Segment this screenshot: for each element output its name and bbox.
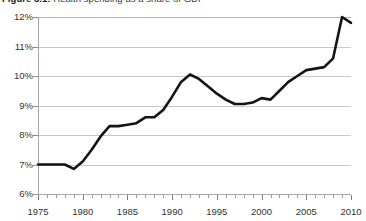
figure-title: Figure 3.1: Health spending as a share o…: [2, 0, 361, 7]
x-tick-minor: [333, 195, 334, 198]
y-tick-label: 6%: [1, 189, 33, 199]
x-tick-minor: [92, 195, 93, 198]
x-tick-major: [172, 195, 173, 200]
x-tick-major: [83, 195, 84, 200]
gridline: [38, 165, 351, 166]
x-tick-label: 1995: [197, 206, 237, 217]
x-tick-major: [351, 195, 352, 200]
x-tick-minor: [235, 195, 236, 198]
x-tick-minor: [145, 195, 146, 198]
y-tick-mark: [33, 106, 38, 107]
x-tick-minor: [253, 195, 254, 198]
x-tick-minor: [163, 195, 164, 198]
y-tick-mark: [33, 47, 38, 48]
x-tick-minor: [47, 195, 48, 198]
y-tick-mark: [33, 135, 38, 136]
x-tick-minor: [181, 195, 182, 198]
x-tick-major: [306, 195, 307, 200]
figure-title-text: Health spending as a share of GDP: [53, 0, 204, 4]
x-tick-minor: [65, 195, 66, 198]
y-axis-line: [38, 17, 39, 195]
x-tick-label: 2000: [242, 206, 282, 217]
x-tick-minor: [271, 195, 272, 198]
x-tick-minor: [226, 195, 227, 198]
x-tick-major: [217, 195, 218, 200]
y-tick-mark: [33, 76, 38, 77]
y-tick-mark: [33, 17, 38, 18]
x-tick-minor: [110, 195, 111, 198]
x-tick-major: [38, 195, 39, 200]
gridline: [38, 76, 351, 77]
x-tick-minor: [342, 195, 343, 198]
x-tick-minor: [56, 195, 57, 198]
x-tick-minor: [324, 195, 325, 198]
gridline: [38, 135, 351, 136]
x-tick-label: 1985: [107, 206, 147, 217]
x-tick-minor: [315, 195, 316, 198]
x-tick-minor: [118, 195, 119, 198]
x-tick-minor: [279, 195, 280, 198]
y-tick-label: 10%: [1, 71, 33, 81]
x-tick-label: 1975: [18, 206, 58, 217]
x-tick-label: 2010: [331, 206, 366, 217]
gridline: [38, 106, 351, 107]
x-axis-line: [38, 194, 351, 195]
y-tick-label: 9%: [1, 101, 33, 111]
gridline: [38, 17, 351, 18]
gridline: [38, 47, 351, 48]
x-axis-labels: 19751980198519901995200020052010: [0, 206, 361, 220]
x-tick-minor: [199, 195, 200, 198]
x-tick-minor: [244, 195, 245, 198]
plot-area: [38, 17, 351, 194]
x-tick-label: 1980: [63, 206, 103, 217]
x-tick-major: [262, 195, 263, 200]
y-axis-labels: 6%7%8%9%10%11%12%: [0, 0, 33, 221]
x-tick-minor: [136, 195, 137, 198]
x-tick-minor: [208, 195, 209, 198]
x-tick-minor: [101, 195, 102, 198]
x-tick-label: 1990: [152, 206, 192, 217]
x-tick-label: 2005: [286, 206, 326, 217]
x-tick-minor: [288, 195, 289, 198]
y-tick-mark: [33, 194, 38, 195]
x-tick-major: [127, 195, 128, 200]
x-tick-minor: [74, 195, 75, 198]
y-tick-label: 11%: [1, 42, 33, 52]
y-tick-label: 12%: [1, 12, 33, 22]
y-tick-mark: [33, 165, 38, 166]
x-tick-minor: [154, 195, 155, 198]
y-tick-label: 8%: [1, 130, 33, 140]
y-tick-label: 7%: [1, 160, 33, 170]
x-tick-minor: [190, 195, 191, 198]
x-tick-minor: [297, 195, 298, 198]
